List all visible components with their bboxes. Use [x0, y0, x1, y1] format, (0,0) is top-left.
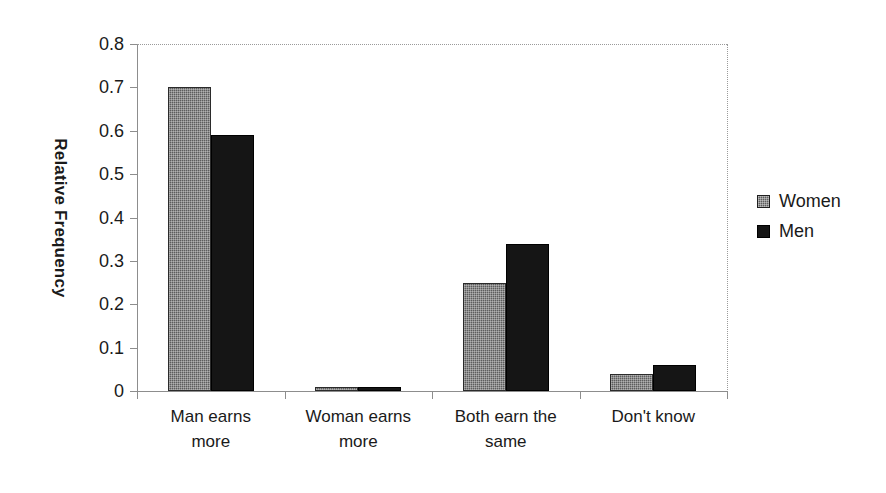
- y-axis-tick: [130, 304, 137, 305]
- x-axis-tick: [580, 391, 581, 399]
- legend-label: Women: [779, 191, 841, 212]
- y-axis-tick-label: 0.2: [4, 295, 124, 313]
- y-axis-tick-label: 0.8: [4, 35, 124, 53]
- x-axis-category-label-line: same: [432, 429, 580, 454]
- y-axis-tick-label: 0.7: [4, 78, 124, 96]
- y-axis-tick-label: 0.4: [4, 209, 124, 227]
- bar-men-3: [653, 365, 696, 391]
- bar-women-0: [168, 87, 211, 391]
- y-axis-tick: [130, 131, 137, 132]
- bar-women-2: [463, 283, 506, 391]
- legend-label: Men: [779, 221, 814, 242]
- x-axis-tick: [727, 391, 728, 399]
- y-axis-tick-label: 0: [4, 382, 124, 400]
- plot-area: [137, 44, 727, 391]
- y-axis-tick: [130, 87, 137, 88]
- y-axis-tick-label: 0.3: [4, 252, 124, 270]
- bar-men-2: [506, 244, 549, 391]
- x-axis-category-label-line: Both earn the: [432, 404, 580, 429]
- x-axis-tick: [137, 391, 138, 399]
- x-axis-category-label: Woman earnsmore: [285, 404, 433, 454]
- chart-legend: WomenMen: [757, 186, 841, 246]
- x-axis-category-label-line: Woman earns: [285, 404, 433, 429]
- legend-item-men[interactable]: Men: [757, 216, 841, 246]
- y-axis-tick: [130, 391, 137, 392]
- relative-frequency-bar-chart: Relative Frequency 0.80.70.60.50.40.30.2…: [0, 0, 886, 493]
- x-axis-category-label-line: more: [137, 429, 285, 454]
- bar-women-1: [315, 387, 358, 391]
- y-axis-tick-label: 0.5: [4, 165, 124, 183]
- right-gridline: [727, 44, 728, 392]
- y-axis-tick-label: 0.1: [4, 339, 124, 357]
- legend-swatch-icon: [757, 195, 770, 208]
- y-axis-tick-label: 0.6: [4, 122, 124, 140]
- y-axis-tick: [130, 174, 137, 175]
- x-axis-category-label: Don't know: [580, 404, 728, 429]
- bar-men-1: [358, 387, 401, 391]
- legend-swatch-icon: [757, 225, 770, 238]
- legend-item-women[interactable]: Women: [757, 186, 841, 216]
- x-axis-category-label-line: Man earns: [137, 404, 285, 429]
- y-axis-tick: [130, 261, 137, 262]
- y-axis-tick: [130, 348, 137, 349]
- x-axis-category-label: Both earn thesame: [432, 404, 580, 454]
- x-axis-tick: [432, 391, 433, 399]
- x-axis-category-label-line: Don't know: [580, 404, 728, 429]
- x-axis-category-label-line: more: [285, 429, 433, 454]
- y-axis-tick: [130, 44, 137, 45]
- x-axis-category-label: Man earnsmore: [137, 404, 285, 454]
- x-axis-tick: [285, 391, 286, 399]
- bar-women-3: [610, 374, 653, 391]
- bar-men-0: [211, 135, 254, 391]
- y-axis-tick: [130, 218, 137, 219]
